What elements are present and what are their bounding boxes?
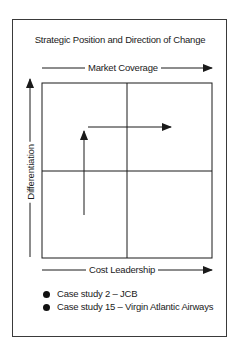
bullet-icon — [43, 291, 50, 298]
legend-item: Case study 15 – Virgin Atlantic Airways — [42, 301, 222, 314]
bullet-icon — [43, 304, 50, 311]
legend-item: Case study 2 – JCB — [42, 288, 222, 301]
cost-leadership-label: Cost Leadership — [86, 264, 158, 275]
market-coverage-label: Market Coverage — [85, 62, 161, 73]
legend-label: Case study 15 – Virgin Atlantic Airways — [57, 301, 213, 312]
legend: Case study 2 – JCB Case study 15 – Virgi… — [42, 288, 222, 313]
legend-label: Case study 2 – JCB — [57, 288, 137, 299]
differentiation-label: Differentiation — [25, 141, 36, 202]
